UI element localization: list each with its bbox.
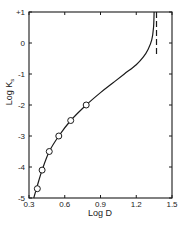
data-point-marker [83, 102, 89, 108]
fitted-curve [34, 12, 154, 198]
data-point-marker [68, 118, 74, 124]
y-tick-label: -2 [18, 101, 26, 110]
y-tick-label: -3 [18, 132, 26, 141]
y-tick-label: -4 [18, 163, 26, 172]
y-axis-title: Log Ks [4, 79, 15, 106]
y-tick-label: 0 [21, 39, 26, 48]
curve-line [34, 12, 154, 198]
data-point-marker [39, 167, 45, 173]
x-tick-label: 0.6 [59, 200, 71, 209]
x-tick-label: 0.3 [23, 200, 35, 209]
x-axis-ticks: 0.30.60.91.21.5 [23, 12, 178, 209]
x-tick-label: 1.2 [131, 200, 143, 209]
chart: +10-1-2-3-4-5 0.30.60.91.21.5 Log D Log … [0, 0, 181, 230]
data-point-marker [56, 133, 62, 139]
svg-text:Log Ks: Log Ks [4, 79, 15, 106]
y-tick-label: +1 [16, 8, 26, 17]
data-point-marker [46, 149, 52, 155]
x-tick-label: 1.5 [166, 200, 178, 209]
plot-border [29, 12, 172, 198]
plot-frame [29, 12, 172, 198]
y-axis-ticks: +10-1-2-3-4-5 [16, 8, 172, 203]
y-tick-label: -1 [18, 70, 26, 79]
x-axis-title: Log D [88, 208, 113, 218]
data-points [34, 102, 89, 192]
data-point-marker [34, 186, 40, 192]
